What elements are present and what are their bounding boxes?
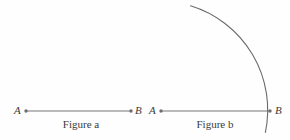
geometry-drawing bbox=[0, 0, 290, 140]
figure-b-label-b: B bbox=[275, 105, 282, 116]
figure-b-point-b-dot bbox=[268, 109, 271, 112]
figure-a-label-b: B bbox=[135, 105, 142, 116]
figure-a-label-a: A bbox=[14, 105, 21, 116]
figure-a-caption: Figure a bbox=[50, 119, 112, 130]
figure-b-point-a-dot bbox=[159, 109, 162, 112]
figure-a-point-b-dot bbox=[129, 109, 132, 112]
figure-a-point-a-dot bbox=[24, 109, 27, 112]
figure-b-label-a: A bbox=[149, 105, 156, 116]
figure-b-arc bbox=[191, 6, 268, 133]
diagram-canvas: A B A B Figure a Figure b bbox=[0, 0, 290, 140]
figure-b-caption: Figure b bbox=[184, 119, 246, 130]
